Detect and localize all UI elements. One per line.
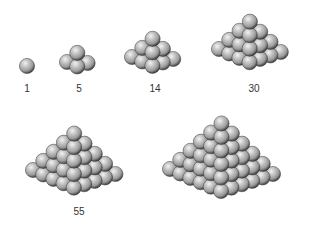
count-label-55: 55: [73, 207, 84, 217]
sphere: [214, 156, 229, 171]
pyramid-91: [0, 0, 312, 225]
sphere: [213, 183, 228, 198]
sphere: [214, 116, 229, 131]
count-label-30: 30: [248, 84, 259, 94]
pyramid-diagram: 1 5 14 30 55: [0, 0, 312, 225]
count-label-5: 5: [76, 84, 82, 94]
sphere: [214, 129, 229, 144]
count-label-14: 14: [149, 84, 160, 94]
sphere: [214, 143, 229, 158]
sphere: [214, 170, 229, 185]
count-label-1: 1: [24, 84, 30, 94]
